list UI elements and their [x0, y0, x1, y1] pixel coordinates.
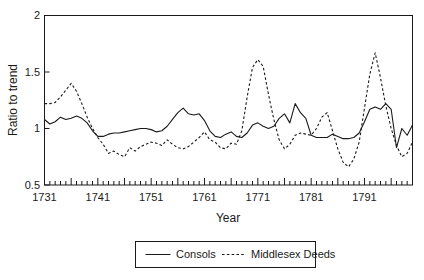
- x-tick-label: 1791: [352, 191, 376, 203]
- y-tick-label: 2: [34, 9, 40, 21]
- line-chart-svg: Ratio to trend 2 1.5 1 0.5 1731174117511…: [0, 0, 424, 280]
- x-tick-label: 1741: [86, 191, 110, 203]
- chart-figure: Ratio to trend 2 1.5 1 0.5 1731174117511…: [0, 0, 424, 280]
- y-axis-ticks: [45, 16, 50, 186]
- x-tick-labels: 1731174117511761177117811791: [32, 191, 376, 203]
- x-tick-label: 1731: [32, 191, 56, 203]
- legend-label-consols: Consols: [176, 248, 216, 260]
- x-tick-label: 1761: [192, 191, 216, 203]
- x-tick-label: 1781: [299, 191, 323, 203]
- legend: Consols Middlesex Deeds: [136, 242, 336, 268]
- legend-label-middlesex-deeds: Middlesex Deeds: [251, 248, 336, 260]
- y-tick-label: 1.5: [25, 66, 40, 78]
- plot-frame: [45, 16, 413, 186]
- series-line-consols: [45, 104, 413, 148]
- x-axis-title: Year: [216, 211, 240, 225]
- y-tick-labels: 2 1.5 1 0.5: [25, 9, 40, 191]
- y-axis-title: Ratio to trend: [6, 64, 20, 136]
- y-tick-label: 0.5: [25, 179, 40, 191]
- y-tick-label: 1: [34, 122, 40, 134]
- x-axis-ticks: [45, 178, 413, 185]
- x-tick-label: 1771: [246, 191, 270, 203]
- x-tick-label: 1751: [139, 191, 163, 203]
- series-line-middlesex-deeds: [45, 53, 413, 167]
